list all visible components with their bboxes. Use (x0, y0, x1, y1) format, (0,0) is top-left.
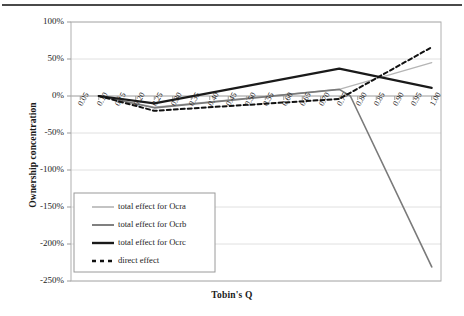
legend-item-label: total effect for Ocra (118, 201, 186, 211)
y-axis-tick-label: -50% (8, 127, 64, 137)
y-axis-tick-label: 100% (8, 16, 64, 26)
legend-item-label: direct effect (118, 255, 159, 265)
line-chart (0, 0, 464, 316)
legend-item-label: total effect for Ocrb (118, 219, 186, 229)
legend-item-label: total effect for Ocrc (118, 237, 186, 247)
y-axis-tick-label: 50% (8, 53, 64, 63)
y-axis-tick-label: -150% (8, 201, 64, 211)
y-axis-tick-label: -250% (8, 275, 64, 285)
chart-page: Ownership concentration Tobin's Q 100%50… (0, 0, 464, 316)
y-axis-tick-label: -100% (8, 164, 64, 174)
x-axis-title: Tobin's Q (0, 290, 464, 300)
y-axis-tick-label: 0% (8, 90, 64, 100)
y-axis-tick-label: -200% (8, 238, 64, 248)
